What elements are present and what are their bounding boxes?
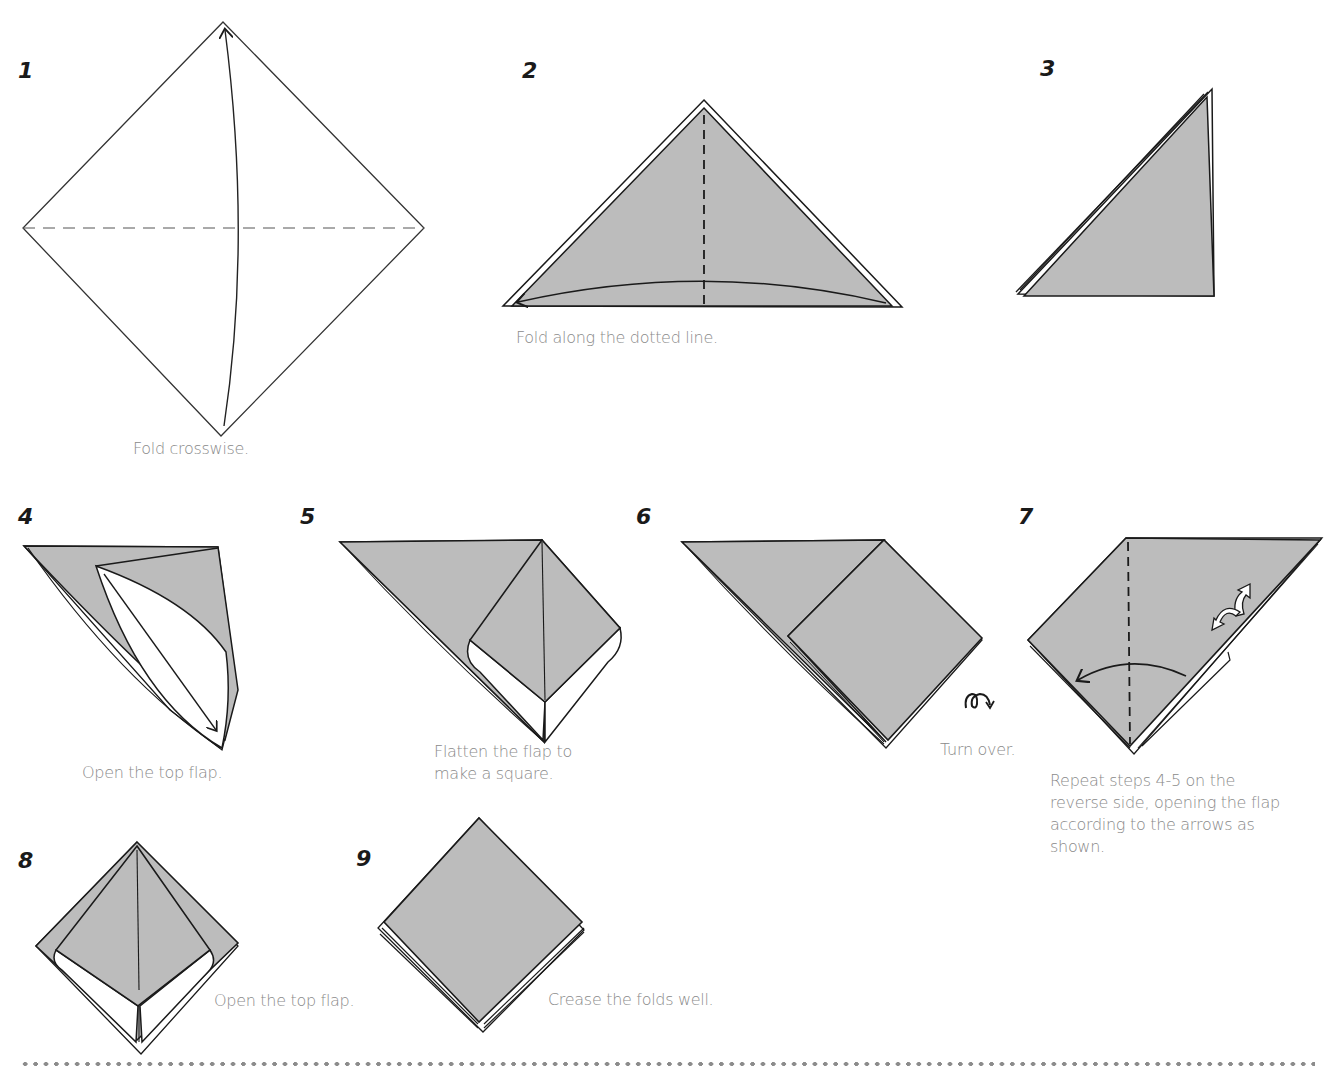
step-3-diagram xyxy=(1016,89,1214,296)
step-5-caption-line-1: Flatten the flap to xyxy=(434,741,572,763)
step-7-diagram xyxy=(1028,538,1322,754)
step-8-caption: Open the top flap. xyxy=(214,990,354,1012)
step-6-diagram xyxy=(682,540,994,748)
step-7-caption-line-4: shown. xyxy=(1050,836,1280,858)
step-7-caption: Repeat steps 4-5 on the reverse side, op… xyxy=(1050,770,1280,858)
step-1-diagram xyxy=(23,22,424,436)
step-7-caption-line-3: according to the arrows as xyxy=(1050,814,1280,836)
step-2-diagram xyxy=(503,100,902,310)
step-5-caption: Flatten the flap to make a square. xyxy=(434,741,572,785)
step-7-caption-line-1: Repeat steps 4-5 on the xyxy=(1050,770,1280,792)
step-8-diagram xyxy=(36,842,238,1054)
dotted-divider xyxy=(20,1061,1315,1067)
turn-over-icon xyxy=(966,694,994,708)
step-5-diagram xyxy=(340,540,621,742)
step-5-caption-line-2: make a square. xyxy=(434,763,572,785)
step-1-caption: Fold crosswise. xyxy=(133,438,249,460)
step-4-caption: Open the top flap. xyxy=(82,762,222,784)
origami-diagrams xyxy=(0,0,1330,1088)
step-9-caption: Crease the folds well. xyxy=(548,989,713,1011)
step-4-diagram xyxy=(24,546,238,750)
step-7-caption-line-2: reverse side, opening the flap xyxy=(1050,792,1280,814)
step-6-caption: Turn over. xyxy=(940,739,1015,761)
step-2-caption: Fold along the dotted line. xyxy=(516,327,718,349)
